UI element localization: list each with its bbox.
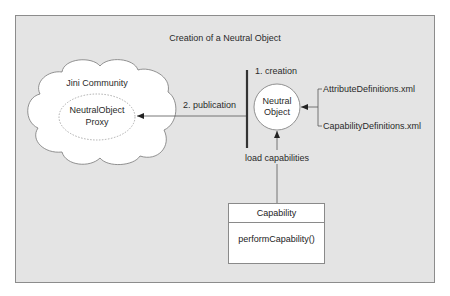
publication-label: 2. publication [183, 100, 236, 111]
diagram-title: Creation of a Neutral Object [150, 33, 300, 44]
diagram-canvas: Creation of a Neutral Object Jini Commun… [0, 0, 450, 296]
load-capabilities-label: load capabilities [232, 153, 322, 164]
proxy-label-line1: NeutralObject [57, 105, 137, 116]
cloud-label: Jini Community [57, 78, 137, 89]
proxy-label-line2: Proxy [57, 117, 137, 128]
creation-label: 1. creation [255, 66, 297, 77]
capability-definitions-file: CapabilityDefinitions.xml [323, 121, 421, 132]
diagram-graphics [0, 0, 450, 296]
attribute-definitions-file: AttributeDefinitions.xml [323, 84, 415, 95]
capability-class-box: Capability performCapability() [228, 203, 325, 264]
capability-class-method: performCapability() [229, 223, 324, 244]
neutral-object-line2: Object [252, 107, 302, 118]
neutral-object-line1: Neutral [252, 96, 302, 107]
capability-class-name: Capability [229, 204, 324, 223]
